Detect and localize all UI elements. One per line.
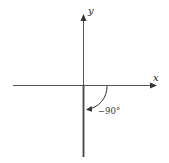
x-axis-label: x bbox=[153, 72, 159, 83]
angle-diagram: y x −90° bbox=[0, 0, 169, 163]
y-axis-label: y bbox=[87, 5, 94, 16]
angle-label: −90° bbox=[98, 106, 120, 116]
